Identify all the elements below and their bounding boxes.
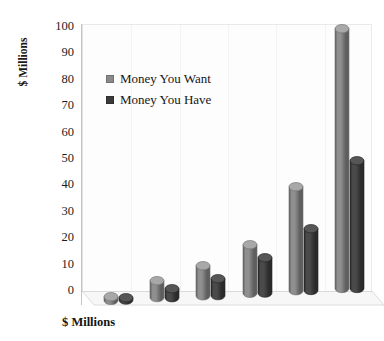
y-tick-label: 30 (34, 205, 74, 218)
legend-label: Money You Want (120, 71, 211, 87)
y-tick-label: 90 (34, 46, 74, 59)
bar-money-you-want (149, 276, 165, 303)
category-separator (276, 25, 277, 291)
bar-money-you-have (164, 284, 180, 303)
legend-swatch-icon (106, 75, 114, 83)
y-tick-label: 10 (34, 258, 74, 271)
y-tick-label: 80 (34, 73, 74, 86)
legend-label: Money You Have (120, 92, 211, 108)
x-axis-title: $ Millions (62, 315, 115, 330)
y-tick-label: 60 (34, 126, 74, 139)
y-tick-label: 20 (34, 231, 74, 244)
category-separator (180, 25, 181, 291)
bar-money-you-want (242, 240, 258, 299)
plot-area (82, 24, 372, 291)
chart-legend: Money You WantMoney You Have (106, 68, 211, 110)
y-tick-label: 100 (34, 20, 74, 33)
y-axis-ticks: 0102030405060708090100 (34, 0, 74, 341)
legend-swatch-icon (106, 96, 114, 104)
bar-money-you-want (334, 24, 350, 294)
category-separator (325, 25, 326, 291)
bar-chart: $ Millions 0102030405060708090100 (0, 0, 384, 341)
y-tick-label: 50 (34, 152, 74, 165)
bar-money-you-have (210, 274, 226, 301)
bar-money-you-have (349, 156, 365, 294)
y-tick-label: 0 (34, 284, 74, 297)
y-axis-title: $ Millions (17, 17, 29, 107)
bar-money-you-have (257, 253, 273, 299)
legend-item: Money You Have (106, 89, 211, 110)
bar-money-you-have (303, 224, 319, 296)
category-separator (131, 25, 132, 291)
bar-money-you-have (118, 293, 134, 306)
legend-item: Money You Want (106, 68, 211, 89)
bar-money-you-want (103, 292, 119, 306)
category-separator (228, 25, 229, 291)
y-tick-label: 40 (34, 178, 74, 191)
bar-money-you-want (288, 182, 304, 296)
bar-money-you-want (195, 261, 211, 302)
y-tick-label: 70 (34, 99, 74, 112)
